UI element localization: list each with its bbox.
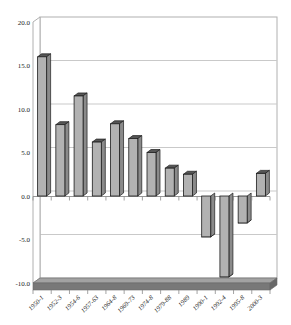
x-axis-label: 2000-3	[246, 293, 265, 312]
bar-chart-3d: 20.015.010.05.00.0-5.0-10.01950-11952-31…	[0, 0, 291, 325]
x-axis-label: 1969-73	[116, 293, 137, 314]
screenshot-root: 20.015.010.05.00.0-5.0-10.01950-11952-31…	[0, 0, 291, 325]
bar	[129, 139, 138, 196]
x-axis-label: 1992-4	[209, 293, 228, 312]
x-axis-label: 1957-63	[79, 293, 100, 314]
bar-side	[174, 165, 178, 196]
y-axis-label: 20.0	[18, 19, 31, 27]
bar-side	[65, 122, 69, 196]
bar-side	[47, 54, 51, 196]
bar	[183, 174, 192, 196]
bar	[74, 96, 83, 196]
bar	[111, 124, 120, 196]
floor-top	[33, 278, 277, 283]
bar	[256, 173, 265, 196]
x-axis-label: 1995-8	[227, 293, 246, 312]
bar-side	[101, 139, 105, 196]
x-axis-label: 1952-3	[45, 293, 64, 312]
chart-figure: 20.015.010.05.00.0-5.0-10.01950-11952-31…	[0, 0, 291, 325]
y-axis-label: -5.0	[19, 236, 31, 244]
bar-side	[83, 93, 87, 196]
bar-side	[120, 121, 124, 196]
bar	[147, 153, 156, 197]
bar-side	[265, 170, 269, 196]
bar-side	[192, 171, 196, 196]
bar	[202, 196, 211, 237]
bar	[92, 142, 101, 196]
x-axis-label: 1979-88	[152, 293, 173, 314]
x-axis-label: 1990-1	[191, 294, 209, 312]
bar-side	[211, 193, 215, 237]
x-axis-label: 1989	[177, 293, 192, 308]
bar	[238, 196, 247, 223]
bar-side	[247, 193, 251, 223]
y-axis-label: 10.0	[18, 106, 31, 114]
bar-side	[156, 150, 160, 197]
x-axis-label: 1950-1	[27, 294, 45, 312]
y-axis-label: 0.0	[21, 193, 30, 201]
y-axis-label: 15.0	[18, 62, 31, 70]
y-axis-label: -10.0	[15, 280, 30, 288]
bar	[38, 57, 47, 196]
bar-side	[229, 193, 233, 277]
y-axis-label: 5.0	[21, 149, 30, 157]
bar	[56, 125, 65, 196]
floor-front	[33, 283, 270, 290]
bar	[165, 168, 174, 196]
bar-side	[138, 136, 142, 196]
bar	[220, 196, 229, 277]
